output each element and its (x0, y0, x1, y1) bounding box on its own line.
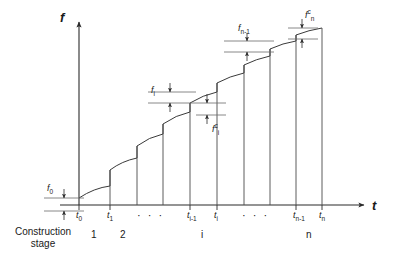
x-tick-t1: t1 (107, 211, 113, 222)
creep-step-curve (79, 28, 322, 198)
dimension-fi-creep (196, 94, 226, 124)
stage-number-0: 1 (91, 230, 97, 240)
stage-jump-risers (110, 35, 296, 186)
axes (60, 22, 364, 205)
figure-canvas: f t Construction stage t0t1· · ·ti-1ti· … (0, 0, 412, 265)
construction-stage-label: Construction stage (6, 226, 80, 249)
dimension-label-fnm1: fn-1 (238, 24, 250, 35)
dimension-label-fnc: fcn (305, 9, 314, 22)
dimension-label-fi: fi (151, 86, 155, 97)
x-tick-tim1: ti-1 (187, 211, 197, 222)
x-axis-label: t (372, 199, 376, 212)
dimension-label-fic: fci (212, 123, 219, 136)
dimension-fn-creep (288, 19, 318, 48)
stage-drop-lines (110, 28, 322, 205)
stage-number-2: i (201, 230, 203, 240)
y-axis-label: f (60, 11, 64, 24)
x-tick-dots1: · · · (137, 210, 164, 221)
dimension-fi (148, 83, 196, 112)
stage-number-3: n (306, 230, 312, 240)
x-tick-t0: t0 (76, 211, 82, 222)
x-axis-ticks (79, 205, 322, 210)
dimension-label-f0: f0 (47, 184, 53, 195)
x-tick-dots2: · · · (242, 210, 269, 221)
x-tick-tn: tn (319, 211, 325, 222)
x-tick-ti: ti (214, 211, 218, 222)
stage-number-1: 2 (120, 230, 126, 240)
x-tick-tnm1: tn-1 (293, 211, 305, 222)
